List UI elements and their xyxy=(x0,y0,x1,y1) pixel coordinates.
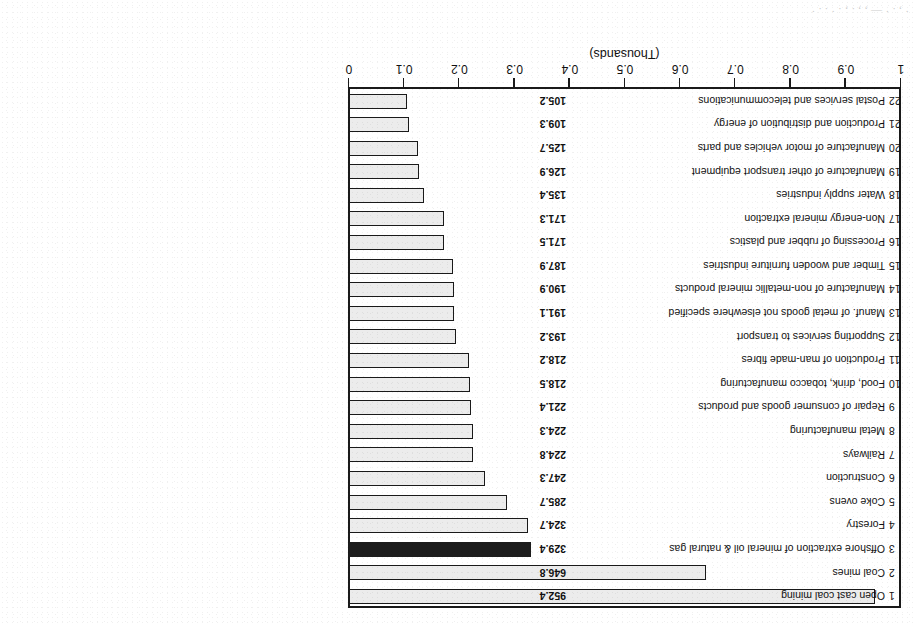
bar-row: 7Railways224.8 xyxy=(0,443,915,467)
bar-value-label: 190.9 xyxy=(522,283,566,295)
bar-category-label: Repair of consumer goods and products xyxy=(571,401,885,413)
bar-rank-number: 18 xyxy=(889,189,911,201)
bar xyxy=(349,471,486,486)
bar xyxy=(349,377,470,392)
bar xyxy=(349,212,444,227)
bar xyxy=(349,306,455,321)
axis-tick-label: 0.8 xyxy=(782,62,799,76)
bar-row: 20Manufacture of motor vehicles and part… xyxy=(0,136,915,160)
bar-category-label: Non-energy mineral extraction xyxy=(571,213,885,225)
bar-value-label: 126.9 xyxy=(522,166,566,178)
bar-rank-number: 2 xyxy=(889,567,911,579)
bar-value-label: 191.1 xyxy=(522,307,566,319)
bar xyxy=(349,141,418,156)
axis-tick xyxy=(789,78,790,87)
bar-row: 22Postal services and telecommunications… xyxy=(0,89,915,113)
bar-category-label: Manufacture of non-metallic mineral prod… xyxy=(571,283,885,295)
bar xyxy=(349,282,454,297)
bar-category-label: Production of man-made fibres xyxy=(571,354,885,366)
bar-category-label: Processing of rubber and plastics xyxy=(571,236,885,248)
axis-tick-label: 0.4 xyxy=(561,62,578,76)
bar-rank-number: 10 xyxy=(889,378,911,390)
bar-category-label: Forestry xyxy=(571,519,885,531)
bar-value-label: 218.5 xyxy=(522,378,566,390)
axis-tick xyxy=(568,78,569,87)
bar-category-label: Postal services and telecommunications xyxy=(571,95,885,107)
bar-rank-number: 5 xyxy=(889,496,911,508)
bar xyxy=(349,353,469,368)
bar xyxy=(349,117,409,132)
bar-chart-figure: 1Open cast coal mining952.42Coal mines64… xyxy=(0,0,915,627)
bar-value-label: 952.4 xyxy=(522,590,566,602)
bar-rank-number: 21 xyxy=(889,118,911,130)
bar-rank-number: 15 xyxy=(889,260,911,272)
bar-value-label: 329.4 xyxy=(522,543,566,555)
bar-value-label: 105.2 xyxy=(522,95,566,107)
axis-tick-label: 0.5 xyxy=(617,62,634,76)
bar-rank-number: 9 xyxy=(889,401,911,413)
bar-value-label: 247.3 xyxy=(522,472,566,484)
bar xyxy=(349,329,456,344)
bar-rank-number: 12 xyxy=(889,331,911,343)
bar-category-label: Supporting services to transport xyxy=(571,331,885,343)
axis-tick xyxy=(458,78,459,87)
bar-rank-number: 7 xyxy=(889,449,911,461)
bar-rank-number: 3 xyxy=(889,543,911,555)
axis-tick xyxy=(348,78,349,87)
bar-category-label: Metal manufacturing xyxy=(571,425,885,437)
bar-value-label: 171.5 xyxy=(522,236,566,248)
bar-row: 10Food, drink, tobacco manufacturing218.… xyxy=(0,372,915,396)
bar-rank-number: 1 xyxy=(889,590,911,602)
bar-rows: 1Open cast coal mining952.42Coal mines64… xyxy=(0,87,915,608)
axis-tick xyxy=(734,78,735,87)
bar-rank-number: 14 xyxy=(889,283,911,295)
bar-value-label: 646.8 xyxy=(522,567,566,579)
bar-row: 18Water supply industries135.4 xyxy=(0,183,915,207)
bar-row: 4Forestry324.7 xyxy=(0,514,915,538)
bar-row: 13Manuf. of metal goods not elsewhere sp… xyxy=(0,301,915,325)
bar-category-label: Offshore extraction of mineral oil & nat… xyxy=(571,543,885,555)
axis-tick xyxy=(513,78,514,87)
bar-value-label: 135.4 xyxy=(522,189,566,201)
bar-category-label: Construction xyxy=(571,472,885,484)
bar-category-label: Timber and wooden furniture industries xyxy=(571,260,885,272)
bar xyxy=(349,447,473,462)
bar-rank-number: 13 xyxy=(889,307,911,319)
axis-tick-label: 1 xyxy=(898,62,905,76)
bar-row: 5Coke ovens285.7 xyxy=(0,490,915,514)
bar xyxy=(349,259,453,274)
bar-row: 19Manufacture of other transport equipme… xyxy=(0,160,915,184)
bar xyxy=(349,94,407,109)
rotated-figure-container: 1Open cast coal mining952.42Coal mines64… xyxy=(0,0,915,627)
bar-row: 3Offshore extraction of mineral oil & na… xyxy=(0,537,915,561)
axis-tick-label: 0.6 xyxy=(672,62,689,76)
bar-value-label: 171.3 xyxy=(522,213,566,225)
x-axis-title: (Thousands) xyxy=(348,47,901,61)
axis-tick-label: 0.9 xyxy=(837,62,854,76)
bar-rank-number: 16 xyxy=(889,236,911,248)
bar-value-label: 193.2 xyxy=(522,331,566,343)
bar-rank-number: 19 xyxy=(889,166,911,178)
bar-category-label: Manufacture of other transport equipment xyxy=(571,166,885,178)
bar xyxy=(349,235,444,250)
bar-rank-number: 11 xyxy=(889,354,911,366)
axis-tick xyxy=(403,78,404,87)
axis-tick xyxy=(900,78,901,87)
bar xyxy=(349,495,507,510)
bar-rank-number: 22 xyxy=(889,95,911,107)
bar-value-label: 187.9 xyxy=(522,260,566,272)
bar-value-label: 224.3 xyxy=(522,425,566,437)
bar-row: 16Processing of rubber and plastics171.5 xyxy=(0,231,915,255)
bar-rank-number: 20 xyxy=(889,142,911,154)
bar-row: 12Supporting services to transport193.2 xyxy=(0,325,915,349)
bar-category-label: Manuf. of metal goods not elsewhere spec… xyxy=(571,307,885,319)
bar-category-label: Production and distribution of energy xyxy=(571,118,885,130)
bar-row: 9Repair of consumer goods and products22… xyxy=(0,396,915,420)
bar-row: 17Non-energy mineral extraction171.3 xyxy=(0,207,915,231)
bar-rank-number: 4 xyxy=(889,519,911,531)
bar-value-label: 218.2 xyxy=(522,354,566,366)
axis-tick xyxy=(679,78,680,87)
bar-rank-number: 8 xyxy=(889,425,911,437)
axis-tick-label: 0.2 xyxy=(451,62,468,76)
bar-category-label: Coke ovens xyxy=(571,496,885,508)
